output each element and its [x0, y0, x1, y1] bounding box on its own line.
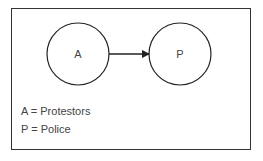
- legend: A = Protestors P = Police: [21, 102, 90, 138]
- node-a: A: [47, 23, 109, 85]
- node-p: P: [149, 23, 211, 85]
- legend-item-a: A = Protestors: [21, 102, 90, 120]
- node-p-label: P: [176, 48, 183, 60]
- legend-item-p: P = Police: [21, 120, 90, 138]
- node-a-label: A: [74, 48, 82, 60]
